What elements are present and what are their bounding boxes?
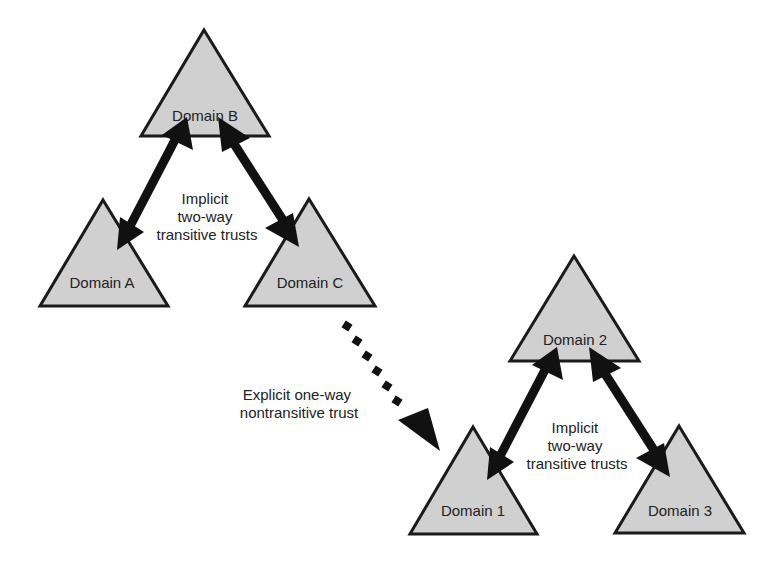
- trust-diagram: Domain B Domain A Domain C Implicit two-…: [0, 0, 778, 570]
- explicit-one-way-trust-arrow: [341, 320, 440, 451]
- domain-2-label: Domain 2: [543, 331, 607, 348]
- implicit-trust-label-2: Implicit two-way transitive trusts: [527, 419, 628, 472]
- domain-a-node: Domain A: [40, 200, 168, 306]
- domain-3-node: Domain 3: [615, 426, 744, 533]
- domain-c-label: Domain C: [277, 274, 344, 291]
- forest-1: Domain B Domain A Domain C Implicit two-…: [40, 30, 375, 306]
- domain-2-node: Domain 2: [510, 256, 639, 361]
- explicit-trust-label: Explicit one-way nontransitive trust: [240, 386, 359, 421]
- arrowhead-icon: [398, 408, 440, 451]
- domain-c-node: Domain C: [245, 199, 375, 306]
- domain-3-label: Domain 3: [648, 502, 712, 519]
- domain-a-label: Domain A: [69, 274, 134, 291]
- implicit-trust-label-1: Implicit two-way transitive trusts: [157, 190, 258, 243]
- domain-1-node: Domain 1: [410, 427, 537, 534]
- domain-1-label: Domain 1: [441, 502, 505, 519]
- domain-b-node: Domain B: [141, 30, 269, 136]
- forest-2: Domain 2 Domain 1 Domain 3 Implicit two-…: [410, 256, 744, 534]
